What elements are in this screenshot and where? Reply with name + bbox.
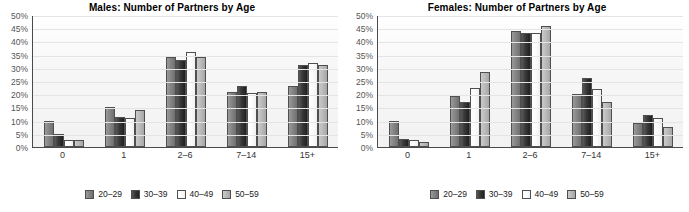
gridline <box>378 108 683 109</box>
gridline <box>378 42 683 43</box>
gridline <box>33 95 338 96</box>
legend-label: 30–39 <box>144 189 168 199</box>
bar <box>227 92 237 147</box>
gridline <box>33 69 338 70</box>
legend-swatch-icon <box>430 190 439 199</box>
y-tick-label: 40% <box>356 38 373 46</box>
bar <box>582 78 592 147</box>
x-tick-label: 15+ <box>277 150 338 166</box>
y-axis-labels-males: 50%45%40%35%30%25%20%15%10%5%0% <box>0 16 30 148</box>
bar <box>64 140 74 147</box>
legend-swatch-icon <box>85 190 94 199</box>
legend-label: 40–49 <box>190 189 214 199</box>
legend-item[interactable]: 30–39 <box>476 189 513 199</box>
y-axis-labels-females: 50%45%40%35%30%25%20%15%10%5%0% <box>345 16 375 148</box>
legend-label: 40–49 <box>535 189 559 199</box>
y-tick-label: 45% <box>11 25 28 33</box>
legend-item[interactable]: 20–29 <box>430 189 467 199</box>
gridline <box>378 95 683 96</box>
y-tick-label: 40% <box>11 38 28 46</box>
legend-swatch-icon <box>476 190 485 199</box>
legend-item[interactable]: 40–49 <box>522 189 559 199</box>
chart-panel-males: Males: Number of Partners by Age 50%45%4… <box>0 0 344 212</box>
bar <box>389 121 399 147</box>
gridline <box>378 135 683 136</box>
gridline <box>378 56 683 57</box>
legend-label: 20–29 <box>98 189 122 199</box>
gridline <box>33 56 338 57</box>
bar <box>643 115 653 147</box>
bar <box>257 92 267 147</box>
y-tick-label: 0% <box>361 144 373 152</box>
x-tick-label: 15+ <box>622 150 683 166</box>
x-tick-label: 7–14 <box>216 150 277 166</box>
gridline <box>378 16 683 17</box>
legend-swatch-icon <box>222 190 231 199</box>
gridline <box>33 42 338 43</box>
y-tick-label: 45% <box>356 25 373 33</box>
bar <box>419 142 429 147</box>
gridline <box>378 69 683 70</box>
y-tick-label: 5% <box>361 131 373 139</box>
y-tick-label: 30% <box>356 65 373 73</box>
legend-label: 50–59 <box>235 189 259 199</box>
dual-bar-chart-figure: Males: Number of Partners by Age 50%45%4… <box>0 0 689 212</box>
legend-item[interactable]: 40–49 <box>177 189 214 199</box>
x-axis-labels-females: 012–67–1415+ <box>377 150 683 166</box>
legend-males: 20–2930–3940–4950–59 <box>0 186 344 202</box>
bar <box>521 33 531 147</box>
bar <box>470 88 480 147</box>
bar <box>247 93 257 147</box>
bar <box>44 121 54 147</box>
y-tick-label: 20% <box>356 91 373 99</box>
legend-item[interactable]: 50–59 <box>567 189 604 199</box>
legend-swatch-icon <box>177 190 186 199</box>
bar <box>186 52 196 147</box>
y-tick-label: 25% <box>356 78 373 86</box>
x-tick-label: 2–6 <box>154 150 215 166</box>
y-tick-label: 35% <box>356 52 373 60</box>
gridline <box>378 29 683 30</box>
gridline <box>33 29 338 30</box>
plot-canvas-females <box>377 16 683 148</box>
plot-area-females: 50%45%40%35%30%25%20%15%10%5%0% 012–67–1… <box>345 16 689 168</box>
bar <box>511 31 521 147</box>
gridline <box>378 122 683 123</box>
bar <box>663 127 673 147</box>
legend-swatch-icon <box>567 190 576 199</box>
legend-item[interactable]: 50–59 <box>222 189 259 199</box>
legend-label: 50–59 <box>580 189 604 199</box>
y-tick-label: 20% <box>11 91 28 99</box>
x-tick-label: 1 <box>93 150 154 166</box>
bar <box>135 110 145 147</box>
y-tick-label: 25% <box>11 78 28 86</box>
gridline <box>33 122 338 123</box>
legend-swatch-icon <box>131 190 140 199</box>
y-tick-label: 50% <box>356 12 373 20</box>
gridline <box>33 108 338 109</box>
legend-item[interactable]: 20–29 <box>85 189 122 199</box>
bar <box>399 139 409 147</box>
x-tick-label: 0 <box>377 150 438 166</box>
x-tick-label: 1 <box>438 150 499 166</box>
bar <box>105 107 115 147</box>
bar <box>531 33 541 147</box>
bar <box>166 57 176 147</box>
legend-item[interactable]: 30–39 <box>131 189 168 199</box>
gridline <box>33 82 338 83</box>
bar <box>572 94 582 147</box>
chart-title-males: Males: Number of Partners by Age <box>0 2 344 13</box>
bar <box>196 57 206 147</box>
x-axis-labels-males: 012–67–1415+ <box>32 150 338 166</box>
legend-label: 30–39 <box>489 189 513 199</box>
bar <box>592 89 602 147</box>
y-tick-label: 10% <box>356 118 373 126</box>
y-tick-label: 15% <box>11 104 28 112</box>
y-tick-label: 0% <box>16 144 28 152</box>
y-tick-label: 50% <box>11 12 28 20</box>
x-tick-label: 7–14 <box>561 150 622 166</box>
gridline <box>378 82 683 83</box>
chart-title-females: Females: Number of Partners by Age <box>345 2 689 13</box>
plot-area-males: 50%45%40%35%30%25%20%15%10%5%0% 012–67–1… <box>0 16 344 168</box>
legend-females: 20–2930–3940–4950–59 <box>345 186 689 202</box>
